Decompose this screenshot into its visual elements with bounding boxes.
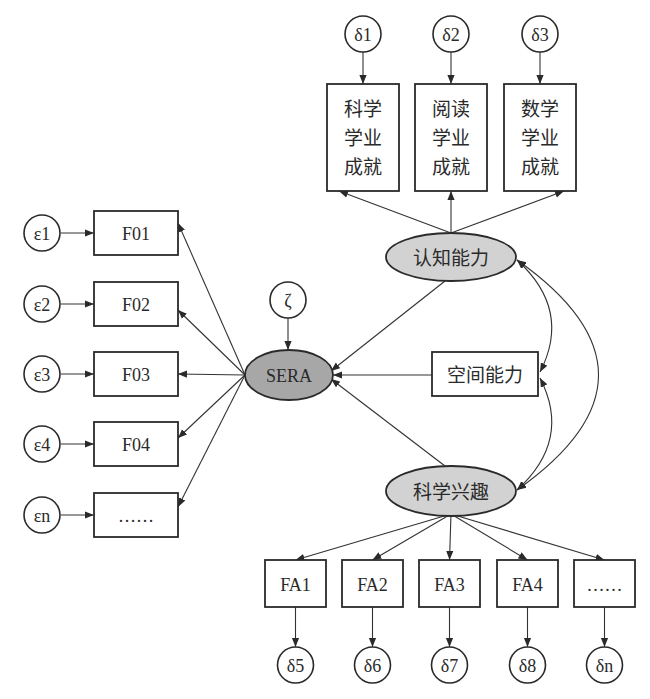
- error-circle-fn: εn: [24, 497, 60, 533]
- error-circle-sci-label: δ1: [354, 25, 371, 45]
- error-circle-f01-label: ε1: [34, 224, 51, 244]
- cognitive-indicator-line: 数学: [521, 98, 559, 120]
- cognitive-indicator-line: 成就: [521, 156, 559, 178]
- sera-loading-arrow-f03: [178, 374, 245, 375]
- error-circle-math-label: δ3: [531, 25, 548, 45]
- interest-indicator-fa4: FA4: [497, 560, 558, 607]
- sera-loading-arrow-f04: [178, 375, 245, 438]
- interest-indicator-fa2: FA2: [342, 560, 403, 607]
- spatial-ability-box: 空间能力: [432, 352, 538, 396]
- interest-loading-arrow-fan: [451, 514, 605, 560]
- interest-loading-arrow-fa2: [373, 514, 452, 560]
- cognitive-ability-ellipse-label: 认知能力: [413, 247, 489, 269]
- sera-indicator-f01-label: F01: [122, 224, 150, 244]
- cognitive-indicator-read: 阅读学业成就: [415, 84, 487, 191]
- error-circle-fan: δn: [587, 647, 623, 683]
- sera-indicator-f03: F03: [94, 352, 178, 396]
- error-circle-fa3: δ7: [432, 647, 468, 683]
- error-circle-sci: δ1: [345, 16, 381, 52]
- error-circle-f03-label: ε3: [34, 365, 51, 385]
- science-interest-ellipse-label: 科学兴趣: [413, 481, 489, 503]
- zeta-disturbance-circle-label: ζ: [284, 291, 292, 311]
- sera-indicator-fn-label: ……: [118, 506, 154, 526]
- error-circle-fn-label: εn: [34, 506, 51, 526]
- interest-indicator-fa3-label: FA3: [434, 575, 465, 595]
- cognitive-indicator-sci: 科学学业成就: [327, 84, 399, 191]
- sera-indicator-f03-label: F03: [122, 365, 150, 385]
- error-circle-fan-label: δn: [596, 656, 613, 676]
- error-circle-fa3-label: δ7: [441, 656, 458, 676]
- sera-loading-arrow-fn: [178, 375, 245, 507]
- interest-indicator-fa2-label: FA2: [357, 575, 388, 595]
- error-circle-fa1: δ5: [278, 647, 314, 683]
- error-circle-f03: ε3: [24, 356, 60, 392]
- error-circle-read: δ2: [433, 16, 469, 52]
- sera-loading-arrow-f02: [178, 310, 245, 375]
- sera-indicator-f02: F02: [94, 282, 178, 326]
- interest-loading-arrow-fa1: [296, 514, 452, 560]
- error-circle-fa4: δ8: [510, 647, 546, 683]
- sera-indicator-f01: F01: [94, 211, 178, 255]
- sera-indicator-f04-label: F04: [122, 435, 150, 455]
- sera-ellipse-label: SERA: [266, 366, 312, 386]
- zeta-disturbance-circle: ζ: [270, 282, 306, 318]
- cognitive-loading-arrow-math: [451, 191, 564, 233]
- sera-indicator-f02-label: F02: [122, 295, 150, 315]
- cognitive-indicator-line: 阅读: [432, 98, 470, 120]
- cognitive-indicator-line: 成就: [432, 156, 470, 178]
- spatial-ability-box-label: 空间能力: [447, 364, 523, 386]
- cognitive-ability-ellipse: 认知能力: [386, 233, 516, 281]
- interest-indicator-fa4-label: FA4: [512, 575, 543, 595]
- error-circle-fa4-label: δ8: [519, 656, 536, 676]
- cognitive-indicator-math: 数学学业成就: [504, 84, 576, 191]
- sera-indicator-f04: F04: [94, 422, 178, 466]
- cognitive-indicator-line: 学业: [344, 127, 382, 149]
- error-circle-fa1-label: δ5: [287, 656, 304, 676]
- sera-loading-arrow-f01: [178, 223, 245, 375]
- error-circle-fa2-label: δ6: [364, 656, 381, 676]
- cognitive-loading-arrow-sci: [339, 191, 451, 233]
- error-circle-f04-label: ε4: [34, 435, 51, 455]
- sem-diagram: SERAζF01ε1F02ε2F03ε3F04ε4……εn科学学业成就δ1阅读学…: [0, 0, 650, 699]
- sera-indicator-fn: ……: [94, 493, 178, 537]
- interest-loading-arrow-fa3: [450, 514, 452, 560]
- error-circle-read-label: δ2: [442, 25, 459, 45]
- error-circle-f04: ε4: [24, 426, 60, 462]
- science-interest-ellipse: 科学兴趣: [386, 466, 516, 516]
- error-circle-fa2: δ6: [355, 647, 391, 683]
- interest-indicator-fa3: FA3: [419, 560, 480, 607]
- interest-to-sera-arrow: [331, 379, 445, 466]
- error-circle-f01: ε1: [24, 215, 60, 251]
- cognitive-indicator-line: 学业: [521, 127, 559, 149]
- nodes-layer: SERAζF01ε1F02ε2F03ε3F04ε4……εn科学学业成就δ1阅读学…: [24, 16, 635, 683]
- interest-indicator-fan-label: ……: [587, 575, 623, 595]
- cognitive-to-sera-arrow: [331, 281, 445, 371]
- cognitive-indicator-line: 学业: [432, 127, 470, 149]
- interest-indicator-fa1-label: FA1: [280, 575, 311, 595]
- cognitive-indicator-line: 成就: [344, 156, 382, 178]
- interest-loading-arrow-fa4: [451, 514, 528, 560]
- error-circle-f02: ε2: [24, 286, 60, 322]
- interest-indicator-fa1: FA1: [265, 560, 326, 607]
- cognitive-indicator-line: 科学: [344, 98, 382, 120]
- error-circle-f02-label: ε2: [34, 295, 51, 315]
- sera-ellipse: SERA: [245, 350, 333, 400]
- error-circle-math: δ3: [522, 16, 558, 52]
- interest-indicator-fan: ……: [574, 560, 635, 607]
